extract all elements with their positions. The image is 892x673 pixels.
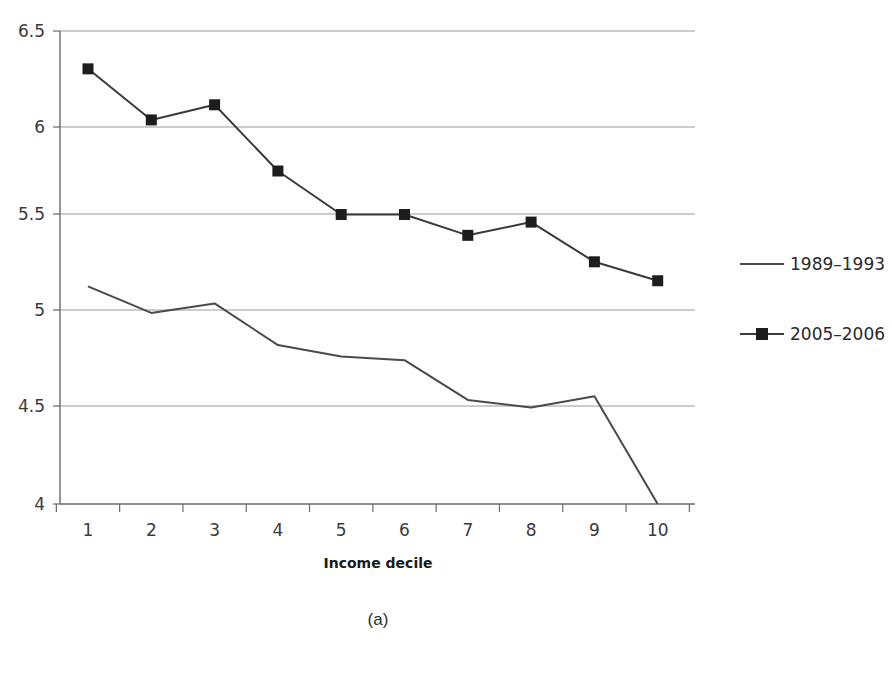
figure-caption: (a) bbox=[368, 610, 389, 629]
series-line-1 bbox=[88, 69, 658, 281]
legend-item-1989-1993[interactable]: 1989–1993 bbox=[740, 254, 885, 274]
series-1989-1993 bbox=[88, 286, 658, 504]
data-point-marker bbox=[209, 99, 220, 110]
x-tick-label-7: 7 bbox=[462, 520, 473, 540]
y-tick-label-2: 5.5 bbox=[18, 204, 45, 224]
x-axis-ticks bbox=[56, 504, 689, 512]
data-point-marker bbox=[526, 217, 537, 228]
line-chart: 6.5 6 5.5 5 4.5 4 12345678910 Income dec… bbox=[0, 0, 892, 673]
y-tick-label-0: 6.5 bbox=[18, 21, 45, 41]
data-point-marker bbox=[399, 209, 410, 220]
x-tick-label-10: 10 bbox=[647, 520, 669, 540]
series-2005-2006 bbox=[83, 63, 664, 286]
data-point-marker bbox=[589, 256, 600, 267]
y-tick-label-1: 6 bbox=[34, 117, 45, 137]
x-tick-label-1: 1 bbox=[83, 520, 94, 540]
gridlines bbox=[60, 31, 695, 406]
y-tick-label-5: 4 bbox=[34, 494, 45, 514]
legend-label-2005-2006: 2005–2006 bbox=[790, 324, 885, 344]
x-tick-label-3: 3 bbox=[209, 520, 220, 540]
data-point-marker bbox=[462, 230, 473, 241]
y-tick-label-3: 5 bbox=[34, 300, 45, 320]
y-axis-ticks bbox=[53, 31, 60, 504]
x-tick-label-5: 5 bbox=[336, 520, 347, 540]
series-line-0 bbox=[88, 286, 658, 504]
data-point-marker bbox=[336, 209, 347, 220]
legend-marker-square-icon bbox=[756, 328, 768, 340]
x-tick-label-9: 9 bbox=[589, 520, 600, 540]
y-axis-tick-labels: 6.5 6 5.5 5 4.5 4 bbox=[18, 21, 45, 514]
x-axis-tick-labels: 12345678910 bbox=[83, 520, 669, 540]
data-point-marker bbox=[83, 63, 94, 74]
data-point-marker bbox=[272, 166, 283, 177]
x-tick-label-6: 6 bbox=[399, 520, 410, 540]
legend-label-1989-1993: 1989–1993 bbox=[790, 254, 885, 274]
x-tick-label-2: 2 bbox=[146, 520, 157, 540]
x-tick-label-8: 8 bbox=[526, 520, 537, 540]
x-axis-title: Income decile bbox=[324, 555, 433, 571]
y-tick-label-4: 4.5 bbox=[18, 396, 45, 416]
x-tick-label-4: 4 bbox=[272, 520, 283, 540]
data-point-marker bbox=[146, 114, 157, 125]
legend: 1989–1993 2005–2006 bbox=[740, 254, 885, 344]
legend-item-2005-2006[interactable]: 2005–2006 bbox=[740, 324, 885, 344]
figure-panel-a: 6.5 6 5.5 5 4.5 4 12345678910 Income dec… bbox=[0, 0, 892, 673]
data-point-marker bbox=[652, 275, 663, 286]
